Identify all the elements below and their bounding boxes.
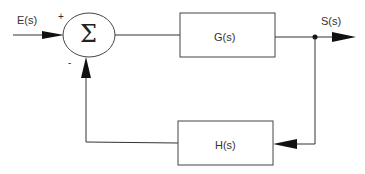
output-arrow-icon <box>332 32 356 42</box>
minus-sign: - <box>68 57 71 68</box>
feedback-line-bottom-left <box>86 142 178 143</box>
input-label: E(s) <box>17 14 37 26</box>
feedback-arrow-icon <box>273 139 297 149</box>
output-label: S(s) <box>321 15 341 27</box>
plus-sign: + <box>58 11 64 22</box>
feedback-block-label: H(s) <box>215 139 236 151</box>
input-arrow-icon <box>42 31 64 39</box>
forward-block-label: G(s) <box>214 31 235 43</box>
sigma-symbol: Σ <box>80 20 97 48</box>
block-diagram-canvas <box>0 0 365 174</box>
feedback-input-arrow-icon <box>81 57 91 78</box>
